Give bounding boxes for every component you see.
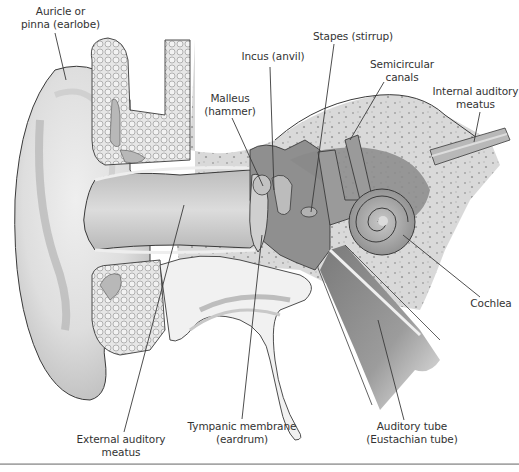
label-cochlea: Cochlea — [466, 297, 516, 310]
label-stapes: Stapes (stirrup) — [303, 30, 403, 43]
label-auditory-tube: Auditory tube (Eustachian tube) — [362, 420, 462, 446]
label-semicircular-canals: Semicircular canals — [352, 58, 452, 84]
label-incus: Incus (anvil) — [230, 50, 316, 63]
bottom-divider — [0, 463, 519, 465]
ear-canal — [84, 170, 260, 250]
label-auricle: Auricle or pinna (earlobe) — [13, 5, 108, 31]
malleus-bone — [253, 175, 271, 195]
cochlea-shape — [349, 189, 415, 255]
stapes-bone — [301, 207, 317, 217]
label-external-meatus: External auditory meatus — [71, 433, 171, 459]
label-internal-meatus: Internal auditory meatus — [428, 85, 519, 111]
label-malleus: Malleus (hammer) — [200, 92, 260, 118]
label-tympanic-membrane: Tympanic membrane (eardrum) — [186, 420, 298, 446]
